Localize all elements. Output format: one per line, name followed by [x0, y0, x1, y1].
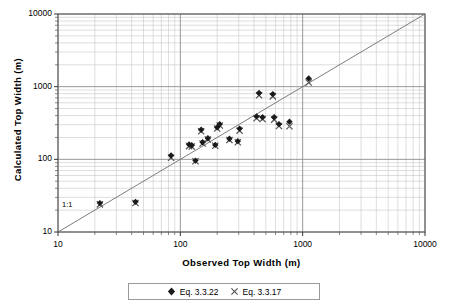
x-tick-label-10: 10 [28, 239, 88, 249]
legend-label-eq-3317: Eq. 3.3.17 [243, 287, 282, 297]
scatter-plot-figure: 1:1 Calculated Top Width (m) Observed To… [0, 0, 449, 306]
x-axis-title: Observed Top Width (m) [58, 257, 425, 268]
y-axis-title: Calculated Top Width (m) [12, 45, 23, 195]
cross-marker-icon [230, 287, 239, 296]
x-tick-label-10000: 10000 [395, 239, 449, 249]
one-to-one-line-label: 1:1 [62, 200, 72, 209]
x-tick-label-100: 100 [150, 239, 210, 249]
diamond-marker-icon [167, 287, 176, 296]
legend-entry-eq-3322: Eq. 3.3.22 [167, 287, 219, 297]
y-tick-label-10000: 10000 [8, 8, 52, 18]
x-tick-label-1000: 1000 [273, 239, 333, 249]
one-to-one-reference-line [58, 14, 425, 232]
chart-legend: Eq. 3.3.22 Eq. 3.3.17 [128, 283, 320, 300]
legend-label-eq-3322: Eq. 3.3.22 [180, 287, 219, 297]
y-tick-label-1000: 1000 [8, 81, 52, 91]
y-tick-label-100: 100 [8, 153, 52, 163]
series-eq-3322-markers [97, 75, 312, 206]
legend-entry-eq-3317: Eq. 3.3.17 [230, 287, 282, 297]
y-tick-label-10: 10 [8, 226, 52, 236]
